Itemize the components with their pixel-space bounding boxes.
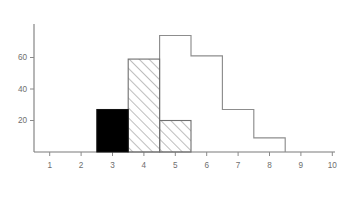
histogram-bar-solid: [97, 109, 128, 152]
x-axis-tick-label: 6: [204, 161, 209, 170]
histogram-bar-hatched: [128, 59, 159, 152]
x-axis-tick-label: 4: [142, 161, 147, 170]
x-axis-tick-label: 2: [79, 161, 84, 170]
histogram-bar-hatched: [160, 121, 191, 153]
solid-black-bar-series: [97, 109, 128, 152]
y-axis-tick-label: 60: [18, 53, 28, 62]
x-axis-tick-label: 5: [173, 161, 178, 170]
y-axis-tick-label: 40: [18, 85, 28, 94]
x-axis-tick-label: 1: [47, 161, 52, 170]
histogram-svg: 204060 12345678910: [0, 0, 343, 198]
x-axis-tick-label: 3: [110, 161, 115, 170]
histogram-chart: 204060 12345678910: [0, 0, 343, 198]
x-axis-tick-label: 10: [328, 161, 338, 170]
x-axis-tick-label: 8: [267, 161, 272, 170]
y-axis-tick-label: 20: [18, 116, 28, 125]
x-axis-tick-label: 9: [299, 161, 304, 170]
x-axis-tick-label: 7: [236, 161, 241, 170]
